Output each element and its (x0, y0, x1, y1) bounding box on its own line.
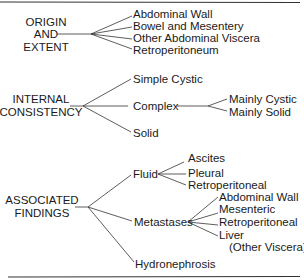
leaf-label: Retroperitoneal (219, 216, 298, 228)
group-label-line: CONSISTENCY (0, 106, 83, 118)
connector (91, 27, 132, 34)
leaf-label: Mesenteric (219, 203, 275, 215)
group-label-line: ASSOCIATED (5, 194, 78, 206)
connector (88, 207, 134, 262)
leaf-label: Retroperitoneal (188, 179, 267, 191)
group-label-line: INTERNAL (13, 93, 70, 105)
connector (88, 207, 132, 221)
bottom-rule (8, 277, 300, 278)
classification-diagram: ORIGIN AND EXTENT Abdominal Wall Bowel a… (0, 0, 304, 280)
connector (188, 222, 218, 236)
leaf-label: Retroperitoneum (133, 44, 219, 56)
category-label: Metastases (134, 216, 193, 228)
category-label: Complex (133, 100, 179, 112)
connector (83, 79, 131, 106)
category-label: Fluid (133, 168, 158, 180)
connector (88, 175, 131, 207)
leaf-label: Liver (219, 229, 244, 241)
group-associated-findings: ASSOCIATED FINDINGS Fluid Metastases Hyd… (5, 152, 304, 270)
leaf-label: Abdominal Wall (133, 8, 212, 20)
group-label-line: ORIGIN (26, 16, 67, 28)
leaf-label: Ascites (188, 152, 225, 164)
connector (158, 174, 186, 185)
connector (188, 197, 218, 222)
leaf-label: (Other Viscera) (229, 241, 304, 253)
category-label: Simple Cystic (133, 73, 203, 85)
connector (208, 106, 227, 111)
leaf-label: Abdominal Wall (219, 191, 298, 203)
group-label-line: AND (34, 28, 58, 40)
group-label-line: EXTENT (23, 41, 68, 53)
category-label: Hydronephrosis (135, 258, 216, 270)
leaf-label: Bowel and Mesentery (133, 20, 244, 32)
leaf-label: Pleural (188, 167, 224, 179)
connector (208, 99, 227, 106)
top-rule (0, 2, 300, 3)
group-origin-and-extent: ORIGIN AND EXTENT Abdominal Wall Bowel a… (23, 8, 260, 56)
connector (158, 162, 184, 174)
leaf-label: Mainly Cystic (229, 93, 297, 105)
leaf-label: Other Abdominal Viscera (133, 32, 261, 44)
leaf-label: Mainly Solid (229, 106, 291, 118)
group-label-line: FINDINGS (15, 207, 70, 219)
category-label: Solid (133, 127, 159, 139)
connector (91, 16, 132, 34)
group-internal-consistency: INTERNAL CONSISTENCY Simple Cystic Compl… (0, 73, 297, 139)
connector (83, 106, 131, 132)
